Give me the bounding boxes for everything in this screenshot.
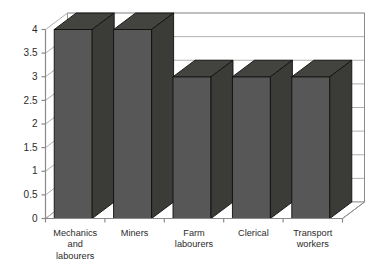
category-label-line: Miners (121, 228, 149, 238)
category-label-line: labourers (56, 251, 95, 261)
x-axis-category-label: Miners (121, 228, 149, 238)
category-label-line: Clerical (238, 228, 269, 238)
y-axis-tick-labels: 00.511.522.533.54 (24, 24, 38, 224)
category-label-line: Farm (183, 228, 205, 238)
y-axis-tick-label: 4 (32, 24, 38, 35)
category-label-line: labourers (175, 239, 214, 249)
bar-side-face (152, 13, 174, 219)
bar-front-face (173, 77, 211, 219)
bar-column (114, 13, 174, 219)
category-label-line: and (68, 239, 83, 249)
bar-column (173, 60, 233, 218)
y-axis-tick-label: 3 (32, 71, 38, 82)
y-axis-tick-label: 1.5 (24, 142, 38, 153)
bar-side-face (92, 13, 114, 219)
bar-front-face (292, 77, 330, 219)
chart-canvas: 00.511.522.533.54 MechanicsandlabourersM… (0, 0, 378, 271)
bar-front-face (114, 30, 152, 219)
x-axis-category-label: Mechanicsandlabourers (53, 228, 97, 261)
bar-column (54, 13, 114, 219)
y-axis-tick-label: 1 (32, 165, 38, 176)
bar-front-face (232, 77, 270, 219)
y-axis-tick-label: 2.5 (24, 95, 38, 106)
x-axis-category-label: Transportworkers (293, 228, 332, 250)
y-axis-tick-label: 3.5 (24, 47, 38, 58)
y-axis-tick-label: 0.5 (24, 189, 38, 200)
y-axis-tick-label: 2 (32, 118, 38, 129)
bar-column (232, 60, 292, 218)
x-axis-category-label: Farmlabourers (175, 228, 214, 250)
bar-chart: 00.511.522.533.54 MechanicsandlabourersM… (0, 0, 378, 271)
bar-front-face (54, 30, 92, 219)
bar-column (292, 60, 352, 218)
bar-side-face (330, 60, 352, 218)
category-label-line: Transport (293, 228, 332, 238)
y-axis-tick-label: 0 (32, 213, 38, 224)
x-axis-category-label: Clerical (238, 228, 269, 238)
category-label-line: Mechanics (53, 228, 97, 238)
bar-side-face (211, 60, 233, 218)
category-label-line: workers (296, 239, 330, 249)
x-axis-category-labels: MechanicsandlabourersMinersFarmlabourers… (53, 228, 332, 261)
bar-side-face (270, 60, 292, 218)
